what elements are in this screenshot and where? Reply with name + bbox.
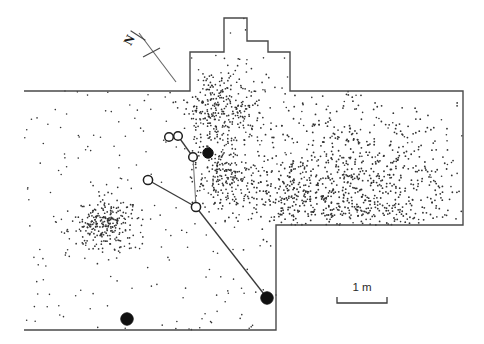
artifact-dot bbox=[418, 169, 420, 171]
artifact-dot bbox=[395, 187, 397, 189]
artifact-dot bbox=[379, 152, 381, 154]
artifact-dot bbox=[101, 223, 103, 225]
artifact-dot bbox=[64, 157, 66, 159]
artifact-dot bbox=[416, 111, 418, 113]
artifact-dot bbox=[362, 180, 364, 182]
artifact-dot bbox=[36, 281, 38, 283]
artifact-dot bbox=[348, 140, 350, 142]
artifact-dot bbox=[326, 214, 328, 216]
artifact-dot bbox=[407, 168, 409, 170]
artifact-dot bbox=[104, 206, 106, 208]
artifact-dot bbox=[299, 182, 301, 184]
artifact-dot bbox=[229, 101, 231, 103]
artifact-dot bbox=[343, 197, 345, 199]
artifact-dot bbox=[458, 190, 460, 192]
artifact-dot bbox=[315, 114, 317, 116]
artifact-dot bbox=[349, 128, 351, 130]
artifact-dot bbox=[231, 140, 233, 142]
artifact-dot bbox=[384, 207, 386, 209]
artifact-dot bbox=[408, 200, 410, 202]
artifact-dot bbox=[232, 249, 234, 251]
artifact-dot bbox=[59, 314, 61, 316]
artifact-dot bbox=[395, 160, 397, 162]
artifact-dot bbox=[118, 121, 120, 123]
artifact-dot bbox=[332, 146, 334, 148]
artifact-dot bbox=[87, 94, 89, 96]
artifact-dot bbox=[211, 168, 213, 170]
artifact-dot bbox=[95, 221, 97, 223]
artifact-dot bbox=[234, 137, 236, 139]
artifact-dot bbox=[285, 107, 287, 109]
artifact-dot bbox=[339, 206, 341, 208]
artifact-dot bbox=[396, 214, 398, 216]
artifact-dot bbox=[96, 226, 98, 228]
artifact-dot bbox=[231, 144, 233, 146]
artifact-dot bbox=[207, 113, 209, 115]
artifact-dot bbox=[312, 132, 314, 134]
artifact-dot bbox=[302, 104, 304, 106]
artifact-dot bbox=[355, 208, 357, 210]
artifact-dot bbox=[256, 198, 258, 200]
artifact-dot bbox=[114, 230, 116, 232]
artifact-dot bbox=[223, 100, 225, 102]
artifact-dot bbox=[236, 81, 238, 83]
artifact-dot bbox=[197, 98, 199, 100]
artifact-dot bbox=[350, 218, 352, 220]
artifact-dot bbox=[204, 113, 206, 115]
artifact-dot bbox=[349, 175, 351, 177]
artifact-dot bbox=[354, 108, 356, 110]
artifact-dot bbox=[305, 223, 307, 225]
artifact-dot bbox=[93, 222, 95, 224]
artifact-dot bbox=[226, 96, 228, 98]
artifact-dot bbox=[362, 222, 364, 224]
artifact-dot bbox=[278, 216, 280, 218]
artifact-dot bbox=[186, 232, 188, 234]
artifact-dot bbox=[296, 199, 298, 201]
artifact-dot bbox=[42, 258, 44, 260]
artifact-dot bbox=[167, 257, 169, 259]
artifact-dot bbox=[222, 205, 224, 207]
artifact-dot bbox=[238, 93, 240, 95]
artifact-dot bbox=[218, 104, 220, 106]
artifact-dot bbox=[141, 225, 143, 227]
artifact-dot bbox=[181, 229, 183, 231]
artifact-dot bbox=[285, 154, 287, 156]
artifact-dot bbox=[198, 69, 200, 71]
artifact-dot bbox=[352, 222, 354, 224]
artifact-dot bbox=[309, 177, 311, 179]
artifact-dot bbox=[224, 145, 226, 147]
artifact-dot bbox=[370, 218, 372, 220]
artifact-dot bbox=[219, 179, 221, 181]
artifact-dot bbox=[299, 205, 301, 207]
artifact-dot bbox=[117, 186, 119, 188]
artifact-dot bbox=[255, 291, 257, 293]
artifact-dot bbox=[92, 293, 94, 295]
artifact-dot bbox=[131, 217, 133, 219]
artifact-dot bbox=[91, 231, 93, 233]
artifact-dot bbox=[92, 210, 94, 212]
artifact-dot bbox=[436, 169, 438, 171]
artifact-dot bbox=[217, 176, 219, 178]
artifact-dot bbox=[187, 246, 189, 248]
artifact-dot bbox=[107, 192, 109, 194]
artifact-dot bbox=[53, 216, 55, 218]
artifact-dot bbox=[226, 87, 228, 89]
artifact-dot bbox=[288, 110, 290, 112]
artifact-dot bbox=[131, 209, 133, 211]
artifact-dot bbox=[410, 209, 412, 211]
artifact-dot bbox=[64, 153, 66, 155]
artifact-dot bbox=[330, 119, 332, 121]
artifact-dot bbox=[144, 100, 146, 102]
artifact-dot bbox=[244, 195, 246, 197]
artifact-dot bbox=[43, 279, 45, 281]
artifact-dot bbox=[444, 162, 446, 164]
artifact-dot bbox=[349, 125, 351, 127]
artifact-dot bbox=[243, 249, 245, 251]
artifact-dot bbox=[251, 183, 253, 185]
artifact-dot bbox=[222, 91, 224, 93]
artifact-dot bbox=[105, 232, 107, 234]
artifact-dot bbox=[394, 199, 396, 201]
artifact-dot bbox=[221, 178, 223, 180]
artifact-dot bbox=[130, 213, 132, 215]
artifact-dot bbox=[218, 119, 220, 121]
